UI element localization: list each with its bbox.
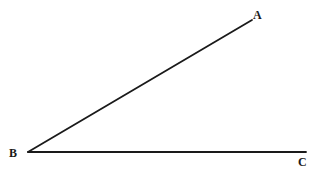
angle-diagram-svg: [0, 0, 321, 172]
angle-diagram-canvas: A B C: [0, 0, 321, 172]
point-label-b: B: [9, 147, 17, 159]
ray-ba-line: [28, 20, 252, 152]
point-label-c: C: [298, 156, 307, 168]
point-label-a: A: [253, 9, 262, 21]
